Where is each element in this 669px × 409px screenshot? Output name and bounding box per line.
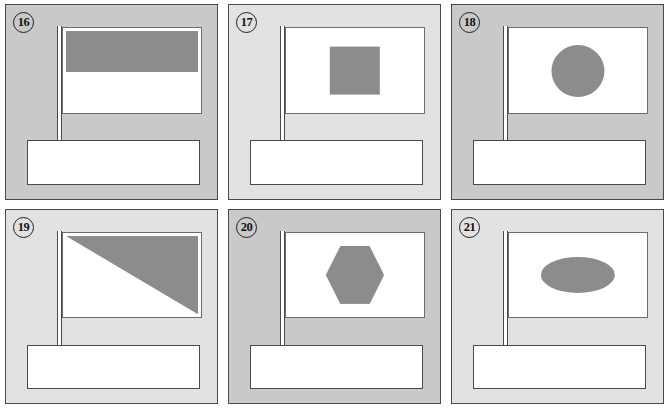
triangle-shape-icon [66,236,199,315]
panel-number-badge: 18 [459,12,480,33]
panel-20[interactable]: 20 [223,205,446,409]
flag-field [66,236,199,315]
flag-banner [285,232,426,319]
answer-box[interactable] [473,140,646,185]
hexagon-shape-icon [326,246,384,304]
panel-20-frame: 20 [228,209,441,405]
answer-box[interactable] [27,345,200,390]
panel-19-frame: 19 [5,209,218,405]
panel-18[interactable]: 18 [446,0,669,205]
panel-17[interactable]: 17 [223,0,446,205]
flag-banner [62,232,203,319]
panel-21[interactable]: 21 [446,205,669,409]
answer-box[interactable] [250,345,423,390]
panel-number-badge: 17 [236,12,257,33]
panel-17-frame: 17 [228,4,441,200]
flag-banner [285,27,426,114]
panel-18-frame: 18 [451,4,664,200]
flag-banner [62,27,203,114]
flag-field [289,236,422,315]
horizontal-band-shape-icon [66,31,199,72]
panel-16-frame: 16 [5,4,218,200]
flag-field [512,31,645,110]
panel-number-badge: 16 [13,12,34,33]
answer-box[interactable] [250,140,423,185]
answer-box[interactable] [473,345,646,390]
panel-number-badge: 20 [236,217,257,238]
ellipse-shape-icon [541,257,615,293]
circle-shape-icon [551,45,604,97]
flag-banner [508,232,649,319]
panel-number-badge: 21 [459,217,480,238]
flag-field [289,31,422,110]
square-shape-icon [330,46,380,95]
panel-grid: 16 17 [0,0,669,409]
panel-21-frame: 21 [451,209,664,405]
flag-field [512,236,645,315]
flag-field [66,31,199,110]
panel-19[interactable]: 19 [0,205,223,409]
flag-banner [508,27,649,114]
answer-box[interactable] [27,140,200,185]
panel-number-badge: 19 [13,217,34,238]
panel-16[interactable]: 16 [0,0,223,205]
worksheet: 16 17 [0,0,669,409]
